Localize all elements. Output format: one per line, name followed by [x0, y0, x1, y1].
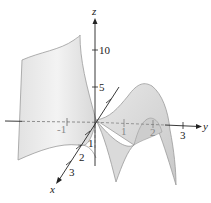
surface-plot: z 10 5 -1 1 2 3 y 1 2 3 x: [0, 0, 211, 203]
z-axis-arrow: [93, 18, 98, 24]
x-tick-label-3: 3: [69, 166, 75, 178]
z-tick-label-10: 10: [99, 44, 111, 56]
z-tick-label-5: 5: [99, 81, 105, 93]
y-axis-label: y: [202, 120, 208, 132]
y-tick-label-neg1: -1: [57, 123, 66, 135]
y-tick-label-2: 2: [150, 126, 156, 138]
x-axis-label: x: [49, 183, 55, 195]
y-tick-label-3: 3: [180, 129, 186, 141]
y-axis-right: [165, 125, 199, 127]
y-tick-label-1: 1: [121, 125, 127, 137]
y-axis-arrow: [196, 124, 202, 129]
x-tick-label-1: 1: [88, 137, 94, 149]
x-axis-arrow: [56, 177, 62, 184]
z-axis-label: z: [91, 5, 97, 17]
x-tick-label-2: 2: [79, 151, 85, 163]
